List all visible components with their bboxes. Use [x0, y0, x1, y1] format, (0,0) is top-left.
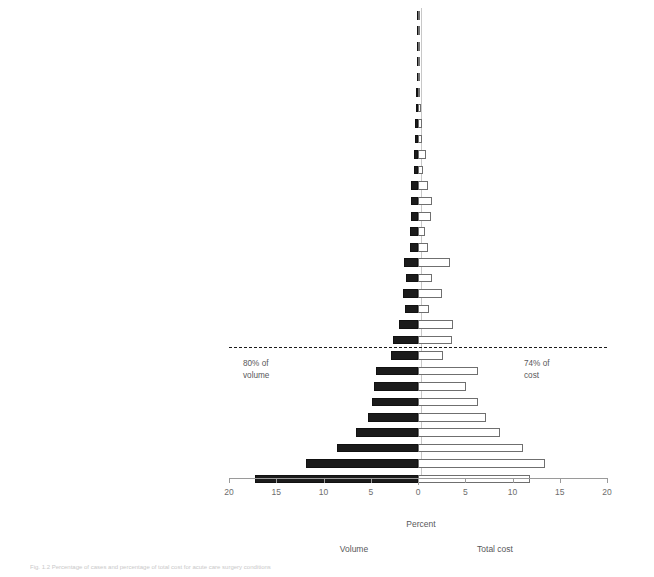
bar-volume — [411, 181, 418, 190]
bar-volume — [255, 475, 418, 484]
bar-volume — [356, 428, 418, 437]
bar-volume — [337, 444, 418, 453]
x-tick-label: 15 — [545, 487, 575, 497]
bar-total-cost — [418, 475, 530, 484]
x-tick — [560, 478, 561, 483]
x-tick — [371, 478, 372, 483]
bar-row: Hernia — [229, 317, 607, 332]
bar-row: Clostridium difficile — [229, 333, 607, 348]
bar-volume — [406, 274, 418, 283]
bar-row: Empyema chest — [229, 132, 607, 147]
bar-volume — [404, 258, 418, 267]
legend-label-volume: Volume — [299, 544, 409, 554]
bar-row: Breast infection — [229, 39, 607, 54]
bar-total-cost — [418, 26, 420, 35]
bar-volume — [411, 197, 418, 206]
bar-total-cost — [418, 243, 428, 252]
bar-total-cost — [418, 135, 422, 144]
bar-total-cost — [418, 57, 420, 66]
bar-total-cost — [418, 166, 423, 175]
bar-row: Pancreatitis — [229, 425, 607, 440]
bar-volume — [410, 243, 418, 252]
bar-volume — [403, 289, 418, 298]
bar-total-cost — [418, 428, 500, 437]
bar-row: Enteric fistula — [229, 101, 607, 116]
bar-total-cost — [418, 212, 431, 221]
bar-total-cost — [418, 274, 432, 283]
bar-total-cost — [418, 197, 432, 206]
bar-row: Meckles diverticulum — [229, 23, 607, 38]
x-tick-label: 5 — [356, 487, 386, 497]
bar-row: Gall bladder — [229, 456, 607, 471]
annotation-cost-line2: cost — [524, 370, 594, 382]
annotation-volume: 80% of volume — [243, 358, 313, 381]
figure-caption: Fig. 1.2 Percentage of cases and percent… — [30, 564, 630, 570]
bar-row: Appendix — [229, 395, 607, 410]
legend-label-total-cost: Total cost — [440, 544, 550, 554]
bar-row: Pneumothorax — [229, 85, 607, 100]
bar-total-cost — [418, 73, 420, 82]
bar-total-cost — [418, 336, 452, 345]
x-tick-label: 10 — [309, 487, 339, 497]
bar-total-cost — [418, 398, 478, 407]
bar-volume — [399, 320, 418, 329]
bar-volume — [391, 351, 418, 360]
bar-row: Esophagus — [229, 116, 607, 131]
bar-row: Enteritis — [229, 271, 607, 286]
bar-total-cost — [418, 119, 422, 128]
bar-total-cost — [418, 305, 429, 314]
x-tick-label: 0 — [403, 487, 433, 497]
bar-volume — [405, 305, 418, 314]
x-tick-label: 20 — [592, 487, 622, 497]
figure-container: ShockMeckles diverticulumBreast infectio… — [0, 0, 654, 577]
plot-area: ShockMeckles diverticulumBreast infectio… — [229, 8, 607, 478]
bar-total-cost — [418, 258, 450, 267]
bar-volume — [374, 382, 418, 391]
bar-volume — [393, 336, 418, 345]
reference-dashed-line — [229, 347, 607, 348]
annotation-cost-line1: 74% of — [524, 358, 594, 370]
bar-row: Wounds — [229, 240, 607, 255]
annotation-cost: 74% of cost — [524, 358, 594, 381]
bar-row: Vascular — [229, 194, 607, 209]
x-tick-label: 20 — [214, 487, 244, 497]
x-tick — [418, 478, 419, 485]
bar-row: Stoma — [229, 163, 607, 178]
bar-total-cost — [418, 459, 545, 468]
bar-row: Support devices — [229, 209, 607, 224]
bar-row: Diverticular disease — [229, 410, 607, 425]
bar-total-cost — [418, 104, 421, 113]
bar-row: Perianal — [229, 302, 607, 317]
bar-total-cost — [418, 367, 478, 376]
bar-row: Liver — [229, 147, 607, 162]
bar-volume — [411, 212, 418, 221]
bar-row: Bowel ischemia — [229, 286, 607, 301]
bar-total-cost — [418, 320, 453, 329]
bar-total-cost — [418, 42, 420, 51]
bar-row: Colorectal cancer — [229, 255, 607, 270]
bar-total-cost — [418, 444, 523, 453]
bar-total-cost — [418, 181, 428, 190]
x-tick — [513, 478, 514, 483]
bar-total-cost — [418, 150, 426, 159]
x-tick — [324, 478, 325, 483]
bar-row: Retroperitoneal infection and abscess — [229, 54, 607, 69]
bar-row: Peritnonitis and abscess — [229, 178, 607, 193]
x-tick-label: 5 — [450, 487, 480, 497]
bar-volume — [368, 413, 418, 422]
bar-row: Small intestine cancer — [229, 70, 607, 85]
bar-volume — [376, 367, 418, 376]
x-tick-label: 15 — [261, 487, 291, 497]
x-tick — [607, 478, 608, 483]
bar-row: Hemorrhoids — [229, 224, 607, 239]
bar-total-cost — [418, 351, 443, 360]
bar-total-cost — [418, 88, 420, 97]
bar-total-cost — [418, 289, 442, 298]
bar-volume — [410, 227, 418, 236]
annotation-volume-line2: volume — [243, 370, 313, 382]
bar-row: Intestinal obstruction — [229, 441, 607, 456]
bar-total-cost — [418, 382, 466, 391]
x-tick — [229, 478, 230, 483]
bar-volume — [372, 398, 418, 407]
annotation-volume-line1: 80% of — [243, 358, 313, 370]
